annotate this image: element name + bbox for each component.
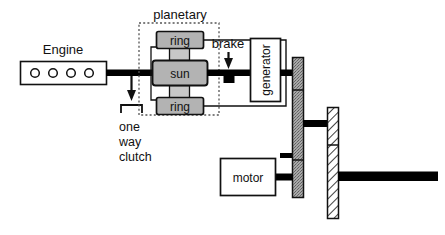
sun-gear-label: sun: [170, 67, 189, 81]
engine-cylinder: [85, 69, 94, 78]
motor-output-shaft: [275, 174, 293, 181]
powertrain-diagram: Engine planetary ring sun ring brake gen…: [0, 0, 445, 235]
one-way-clutch-group: [121, 76, 142, 113]
motor-label: motor: [233, 171, 264, 185]
one-way-clutch-label-line2: way: [118, 135, 142, 149]
hatched-output-bar: [328, 108, 339, 219]
one-way-clutch-label-line3: clutch: [119, 150, 152, 164]
hatched-output-bar-group: [328, 108, 339, 219]
generator-label: generator: [259, 44, 273, 95]
brake-group: [224, 52, 235, 83]
planetary-label: planetary: [153, 7, 207, 22]
engine-cylinder: [31, 69, 40, 78]
one-way-clutch-label-line1: one: [119, 120, 140, 134]
dotted-transfer-bar-group: [293, 58, 304, 198]
sun-output-shaft: [207, 70, 252, 77]
final-output-shaft: [338, 172, 438, 182]
engine-label: Engine: [43, 42, 83, 57]
engine-cylinder: [67, 69, 76, 78]
ring-gear-top-label: ring: [170, 34, 190, 48]
brake-pad-block: [224, 76, 235, 83]
dotted-transfer-bar: [293, 58, 304, 198]
brake-label: brake: [212, 36, 245, 51]
engine-group: [21, 62, 107, 85]
brake-arrow-head: [224, 58, 233, 69]
dotted-to-hatched-connector: [303, 120, 328, 127]
one-way-clutch-arrow-head: [127, 90, 136, 101]
ring-gear-bottom-label: ring: [170, 100, 190, 114]
diagram-canvas: Engine planetary ring sun ring brake gen…: [0, 0, 445, 235]
engine-cylinder: [49, 69, 58, 78]
